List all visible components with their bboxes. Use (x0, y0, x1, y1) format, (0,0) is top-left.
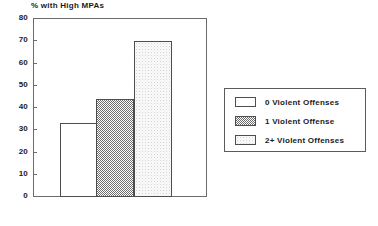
y-axis-tick-label: 60 (8, 59, 28, 67)
y-axis-tick-mark (33, 174, 37, 175)
y-axis-tick-label: 50 (8, 81, 28, 89)
y-axis-tick-label: 0 (8, 192, 28, 200)
bar-2 (96, 99, 134, 197)
legend-swatch-1 (235, 97, 256, 107)
legend-item-2: 1 Violent Offense (235, 114, 334, 128)
legend-label-1: 0 Violent Offenses (265, 98, 339, 107)
bar-1 (60, 123, 97, 197)
legend-item-3: 2+ Violent Offenses (235, 133, 344, 147)
y-axis-tick-label: 10 (8, 170, 28, 178)
y-axis-tick-label: 20 (8, 148, 28, 156)
legend-item-1: 0 Violent Offenses (235, 95, 339, 109)
bar-chart-figure: % with High MPAs 80706050403020100 0 Vio… (0, 0, 378, 226)
legend: 0 Violent Offenses1 Violent Offense2+ Vi… (224, 88, 366, 152)
legend-swatch-3 (235, 135, 256, 145)
y-axis-tick-label: 80 (8, 14, 28, 22)
y-axis-tick-label: 70 (8, 36, 28, 44)
bar-3 (134, 41, 172, 197)
y-axis-tick-mark (33, 63, 37, 64)
legend-label-2: 1 Violent Offense (265, 117, 334, 126)
y-axis-tick-mark (33, 107, 37, 108)
y-axis-tick-mark (33, 85, 37, 86)
y-axis-tick-mark (33, 152, 37, 153)
y-axis-tick-mark (33, 40, 37, 41)
y-axis-tick-label: 40 (8, 103, 28, 111)
legend-label-3: 2+ Violent Offenses (265, 136, 344, 145)
y-axis-tick-label: 30 (8, 125, 28, 133)
y-axis-tick-mark (33, 129, 37, 130)
legend-swatch-2 (235, 116, 256, 126)
